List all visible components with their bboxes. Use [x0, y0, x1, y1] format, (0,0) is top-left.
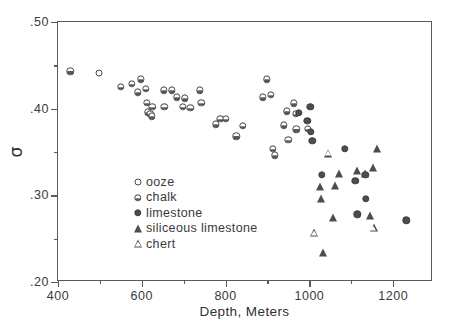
x-tick-minor [267, 280, 268, 284]
data-point-limestone [362, 195, 369, 202]
data-point-chalk [292, 110, 299, 117]
data-point-chalk [196, 87, 203, 94]
data-point-siliceous-limestone [366, 212, 374, 220]
x-tick-label: 800 [214, 289, 236, 303]
data-point-siliceous-limestone [316, 182, 324, 190]
y-tick-major [51, 282, 58, 283]
y-tick-major [51, 195, 58, 196]
x-tick-minor [351, 280, 352, 284]
data-point-chalk [148, 113, 155, 120]
x-tick-major [309, 280, 310, 287]
data-point-limestone [309, 137, 316, 144]
data-point-limestone [307, 103, 314, 110]
data-point-limestone [295, 109, 302, 116]
data-point-chalk [263, 75, 270, 82]
data-point-chalk [304, 125, 311, 132]
data-point-limestone [304, 117, 311, 124]
y-tick-major [51, 109, 58, 110]
data-point-chalk [233, 133, 240, 140]
x-tick-label: 600 [131, 289, 153, 303]
data-point-siliceous-limestone [317, 194, 325, 202]
data-point-chalk [146, 110, 153, 117]
data-point-siliceous-limestone [373, 145, 381, 153]
data-point-chalk [181, 95, 188, 102]
data-point-chert [324, 149, 332, 157]
data-point-limestone [341, 145, 348, 152]
data-point-chalk [267, 91, 274, 98]
data-point-limestone [353, 211, 360, 218]
y-tick-label: .20 [30, 275, 49, 289]
data-point-chalk [134, 88, 141, 95]
data-point-limestone [402, 217, 409, 224]
data-point-chalk [259, 94, 266, 101]
x-tick-label: 400 [47, 289, 69, 303]
data-point-chalk [179, 103, 186, 110]
data-point-siliceous-limestone [353, 167, 361, 175]
open-triangle-icon [130, 236, 146, 252]
y-tick-minor [54, 239, 58, 240]
data-point-chalk [239, 122, 246, 129]
x-tick-minor [100, 280, 101, 284]
y-tick-major [51, 22, 58, 23]
scatter-plot-figure: σ Depth, Meters .20.30.40.50400600800100… [0, 0, 458, 332]
data-point-chalk [149, 103, 156, 110]
data-point-chalk [160, 87, 167, 94]
data-point-chalk [293, 126, 300, 133]
legend-item-chert: chert [130, 236, 258, 252]
legend: oozechalklimestonesiliceous limestoneche… [130, 174, 258, 252]
legend-label: chert [146, 237, 176, 251]
y-axis-title: σ [6, 147, 26, 158]
data-point-chalk [128, 80, 135, 87]
half-filled-circle-icon [130, 190, 146, 206]
y-tick-label: .30 [30, 188, 49, 202]
y-tick-minor [54, 152, 58, 153]
data-point-siliceous-limestone [319, 248, 327, 256]
legend-label: ooze [146, 175, 175, 189]
data-point-chalk [143, 99, 150, 106]
data-point-siliceous-limestone [335, 169, 343, 177]
data-point-chalk [117, 83, 124, 90]
data-point-chalk [269, 145, 276, 152]
legend-item-ooze: ooze [130, 174, 258, 190]
data-point-limestone [318, 171, 325, 178]
x-tick-major [58, 280, 59, 287]
y-tick-minor [54, 65, 58, 66]
legend-label: siliceous limestone [146, 221, 258, 235]
filled-triangle-icon [130, 221, 146, 237]
plot-area: .20.30.40.5040060080010001200 oozechalkl… [57, 21, 432, 281]
data-point-ooze [96, 70, 103, 77]
x-tick-label: 1200 [378, 289, 408, 303]
x-tick-major [393, 280, 394, 287]
x-tick-label: 1000 [294, 289, 324, 303]
data-point-siliceous-limestone [331, 181, 339, 189]
data-point-chalk [168, 87, 175, 94]
data-point-chalk [283, 108, 290, 115]
legend-item-siliceous-limestone: siliceous limestone [130, 221, 258, 237]
x-tick-major [226, 280, 227, 287]
data-point-chalk [216, 115, 223, 122]
data-point-chalk [137, 75, 144, 82]
y-tick-label: .50 [30, 15, 49, 29]
data-point-chalk [290, 100, 297, 107]
filled-circle-icon [130, 205, 146, 221]
data-point-limestone [352, 177, 359, 184]
data-point-limestone [307, 128, 314, 135]
y-tick-label: .40 [30, 102, 49, 116]
data-point-siliceous-limestone [361, 169, 369, 177]
data-point-siliceous-limestone [369, 163, 377, 171]
data-point-chalk [212, 121, 219, 128]
data-point-chalk [271, 152, 278, 159]
data-point-chalk [144, 108, 151, 115]
data-point-chalk [142, 85, 149, 92]
legend-item-limestone: limestone [130, 205, 258, 221]
data-point-chalk [285, 136, 292, 143]
data-point-chalk [173, 94, 180, 101]
open-circle-icon [130, 174, 146, 190]
legend-label: limestone [146, 206, 203, 220]
data-point-chalk [222, 115, 229, 122]
x-tick-minor [184, 280, 185, 284]
data-point-chalk [187, 104, 194, 111]
data-point-limestone [361, 171, 368, 178]
x-axis-title: Depth, Meters [57, 304, 432, 319]
data-point-chert [370, 224, 378, 232]
